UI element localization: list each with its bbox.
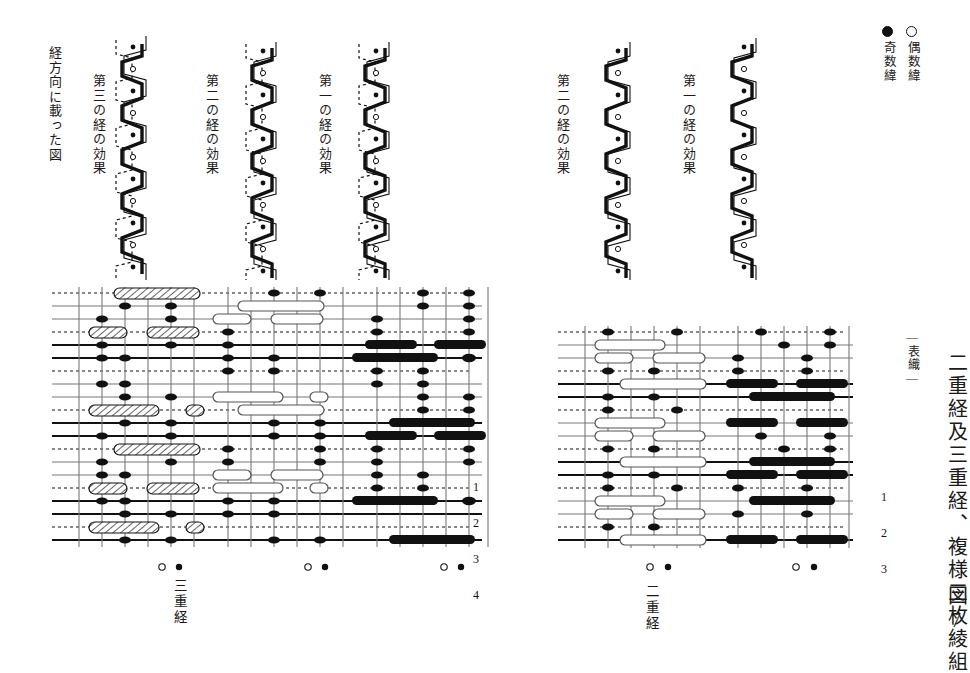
- left-warp-head-markers: [52, 556, 492, 578]
- legend-item-even-weft: 偶数緯: [906, 26, 919, 83]
- open-circle-icon: [906, 26, 917, 37]
- legend-item-odd-weft: 奇数緯: [882, 26, 895, 83]
- left-cross-section-drawing-2: [232, 40, 290, 282]
- left-group-label: 三重経: [172, 578, 186, 626]
- left-cross-section-title-0: 経方向に載った図: [48, 46, 61, 162]
- right-weave-diagram: [558, 322, 858, 550]
- right-cross-section-drawing-1: [588, 40, 646, 282]
- right-warp-head-markers: [558, 556, 858, 578]
- right-cross-section-drawing-0: [714, 36, 772, 282]
- legend-label-odd-weft: 奇数緯: [882, 41, 895, 83]
- right-group-label: 二重経: [644, 584, 658, 632]
- side-note: —表織—: [906, 330, 918, 386]
- left-cross-section-drawing-1: [345, 40, 403, 282]
- left-row-numbers: 1 2 3 4: [470, 480, 482, 606]
- legend: 奇数緯 偶数緯: [871, 26, 918, 83]
- left-cross-section-drawing-3: [102, 34, 160, 284]
- filled-circle-icon: [882, 26, 893, 37]
- legend-label-even-weft: 偶数緯: [906, 41, 919, 83]
- left-cross-section-title-2: 第二の経の効果: [205, 74, 218, 176]
- left-cross-section-title-3: 第一の経の効果: [318, 74, 331, 176]
- figure-number: 図7: [946, 585, 966, 635]
- right-row-numbers: 1 2 3: [878, 490, 890, 580]
- left-weave-diagram: [52, 283, 492, 551]
- right-cross-section-title-0: 第二の経の効果: [556, 74, 569, 176]
- right-cross-section-title-1: 第一の経の効果: [682, 74, 695, 176]
